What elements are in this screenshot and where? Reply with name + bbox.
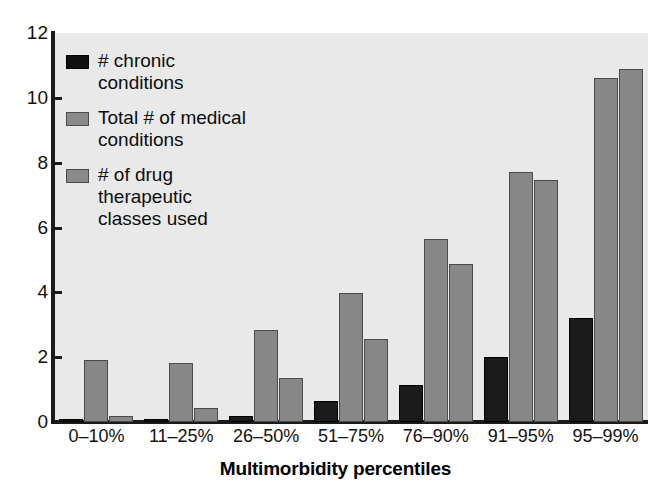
bar (109, 416, 133, 422)
bar-group (314, 33, 388, 422)
y-tick-label: 0 (4, 412, 48, 431)
bar-group (399, 33, 473, 422)
bar (339, 293, 363, 422)
bar (314, 401, 338, 422)
bar (484, 357, 508, 422)
bar (364, 339, 388, 422)
bar-chart-figure: 024681012 0–10%11–25%26–50%51–75%76–90%9… (0, 0, 671, 498)
bar (619, 69, 643, 422)
gray-swatch (66, 112, 89, 126)
y-tick-label: 4 (4, 282, 48, 301)
x-axis-title: Multimorbidity percentiles (0, 458, 671, 480)
x-tick-label: 51–75% (309, 427, 394, 445)
y-tick-label: 6 (4, 218, 48, 237)
bar (424, 239, 448, 422)
legend-label: # of drug therapeutic classes used (98, 164, 248, 230)
bar-group (569, 33, 643, 422)
legend-label: Total # of medical conditions (98, 107, 248, 151)
black-swatch (66, 55, 89, 69)
bar (594, 78, 618, 422)
bar (449, 264, 473, 422)
x-tick-label: 0–10% (54, 427, 139, 445)
bar (399, 385, 423, 422)
x-tick-label: 11–25% (139, 427, 224, 445)
bar (569, 318, 593, 422)
x-tick-label: 76–90% (393, 427, 478, 445)
y-tick-label: 10 (4, 88, 48, 107)
bar (254, 330, 278, 422)
gray-swatch (66, 169, 89, 183)
x-tick-label: 95–99% (563, 427, 648, 445)
y-tick-label: 8 (4, 153, 48, 172)
legend-item: Total # of medical conditions (66, 107, 256, 151)
bar (509, 172, 533, 422)
bar (59, 419, 83, 422)
bar (84, 360, 108, 422)
y-tick-label: 2 (4, 347, 48, 366)
bar (279, 378, 303, 422)
bar (229, 416, 253, 422)
legend-item: # chronic conditions (66, 50, 256, 94)
y-tick-label: 12 (4, 23, 48, 42)
x-tick-label: 26–50% (224, 427, 309, 445)
x-tick-label: 91–95% (478, 427, 563, 445)
bar-group (484, 33, 558, 422)
bar (144, 419, 168, 422)
bar (169, 363, 193, 422)
bar (534, 180, 558, 422)
legend-item: # of drug therapeutic classes used (66, 164, 256, 230)
bar (194, 408, 218, 422)
legend-label: # chronic conditions (98, 50, 248, 94)
chart-legend: # chronic conditionsTotal # of medical c… (66, 50, 256, 243)
